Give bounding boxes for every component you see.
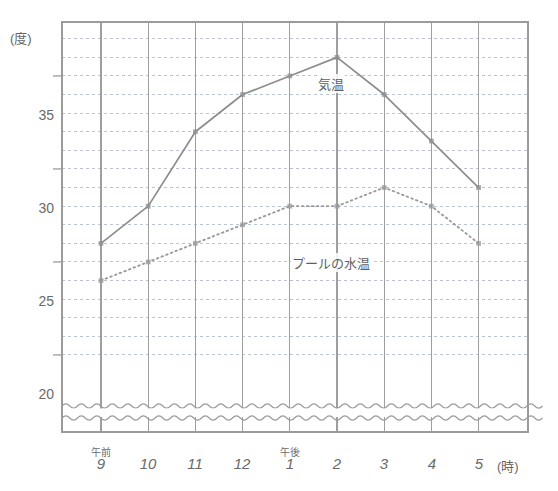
data-point [193,129,198,134]
data-point [146,260,151,265]
data-point [476,241,481,246]
data-point [99,241,104,246]
series-label-water-temp: プールの水温 [291,253,371,272]
y-tick-label-30: 30 [24,200,54,216]
x-tick-label-9: 9 [81,455,121,472]
data-point [193,241,198,246]
x-tick-label-2: 2 [317,455,357,472]
chart-frame [53,22,528,432]
x-tick-label-4: 4 [412,455,452,472]
data-point [146,204,151,209]
x-axis-unit-label: (時) [497,456,519,475]
x-tick-label-5: 5 [459,455,499,472]
y-tick-label-35: 35 [24,107,54,123]
data-point [382,185,387,190]
data-point [287,204,292,209]
axis-break-wave [62,404,543,420]
y-tick-label-20: 20 [24,386,54,402]
data-point [99,278,104,283]
x-tick-label-3: 3 [364,455,404,472]
chart-container: (度) (時) 35 30 25 20 午前 午後 9 10 11 12 1 2… [0,0,558,491]
data-point [335,204,340,209]
plot-area [0,0,558,491]
x-tick-label-11: 11 [175,455,215,472]
data-point [382,92,387,97]
gridlines-horizontal [62,39,528,355]
data-point [429,139,434,144]
data-point [287,74,292,79]
y-tick-label-25: 25 [24,293,54,309]
data-point [429,204,434,209]
x-tick-label-10: 10 [128,455,168,472]
data-point [240,222,245,227]
data-point [335,55,340,60]
gridlines-vertical [101,22,479,432]
y-axis-unit-label: (度) [10,28,32,47]
data-point [240,92,245,97]
series-label-air-temp: 気温 [317,74,345,93]
x-tick-label-12: 12 [222,455,262,472]
data-point [476,185,481,190]
x-tick-label-1: 1 [270,455,310,472]
